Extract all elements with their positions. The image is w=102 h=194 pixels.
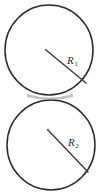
two-tangent-circles-diagram (0, 0, 102, 194)
lower-radius-subscript: 2 (75, 142, 79, 150)
upper-radius-line (46, 50, 86, 83)
upper-circle-outline (5, 5, 93, 95)
figure-container: R1 R2 (0, 0, 102, 194)
lower-circle-outline (7, 100, 95, 190)
upper-center-dot (45, 49, 48, 52)
upper-radius-subscript: 1 (74, 60, 78, 68)
upper-radius-symbol: R (67, 54, 74, 66)
lower-radius-label: R2 (68, 137, 78, 148)
upper-radius-label: R1 (67, 55, 77, 66)
lower-radius-symbol: R (68, 136, 75, 148)
lower-center-dot (47, 129, 50, 132)
